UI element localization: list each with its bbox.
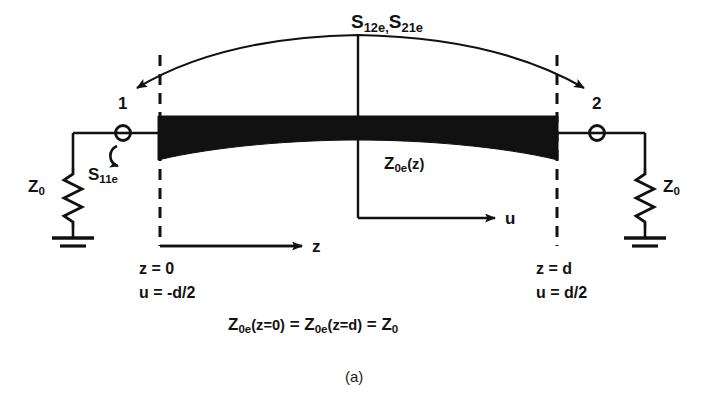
right-plane-z-label: z = d — [536, 261, 572, 277]
impedance-left-label: Z0 — [28, 178, 45, 198]
circuit-diagram-svg — [0, 0, 714, 415]
right-plane-u-label: u = d/2 — [536, 285, 587, 301]
reflection-loop-arrow-icon — [110, 146, 118, 166]
s-parameter-transmission-label: S12e,S21e — [351, 12, 423, 35]
resistor-zigzag-icon-right — [636, 168, 654, 228]
impedance-right-label: Z0 — [663, 178, 680, 198]
port-1-label: 1 — [118, 95, 127, 112]
port-2-label: 2 — [592, 95, 601, 112]
port-node-circle-icon-left — [116, 126, 131, 141]
u-axis-label: u — [505, 210, 515, 227]
figure-container: S12e,S21e 1 2 S11e Z0 Z0 Z0e(z) z u z = … — [0, 0, 714, 415]
port-node-circle-icon-right — [590, 126, 605, 141]
double-headed-arc-arrow-icon — [137, 35, 584, 88]
line-impedance-label: Z0e(z) — [384, 155, 424, 175]
left-plane-z-label: z = 0 — [139, 261, 174, 277]
ground-symbol-icon-left — [52, 228, 94, 246]
s-parameter-reflection-label: S11e — [88, 166, 118, 186]
figure-caption: (a) — [345, 368, 363, 385]
ground-symbol-icon-right — [624, 228, 666, 246]
resistor-zigzag-icon-left — [64, 168, 82, 228]
z-axis-label: z — [312, 238, 321, 255]
left-plane-u-label: u = -d/2 — [139, 285, 195, 301]
boundary-condition-equation: Z0e(z=0) = Z0e(z=d) = Z0 — [228, 316, 398, 336]
